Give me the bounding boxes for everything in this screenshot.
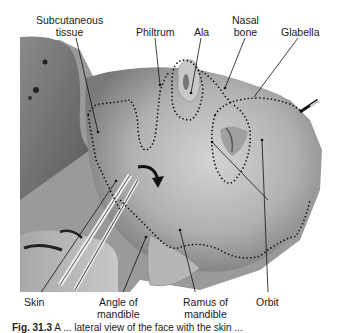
label-line: tissue [36,26,103,38]
label-line: Ala [194,26,209,38]
label-line: Angle of [97,296,140,308]
label-line: Glabella [281,26,320,38]
label-ala: Ala [194,26,209,38]
label-ramus-of-mandible: Ramus of mandible [183,296,228,320]
label-glabella: Glabella [281,26,320,38]
label-line: Skin [24,296,44,308]
label-line: Philtrum [136,26,175,38]
label-angle-of-mandible: Angle of mandible [97,296,140,320]
caption-text: A ... lateral view of the face with the … [54,322,242,333]
label-nasal-bone: Nasal bone [232,14,259,38]
label-line: mandible [183,308,228,320]
label-line: Nasal [232,14,259,26]
label-philtrum: Philtrum [136,26,175,38]
label-line: mandible [97,308,140,320]
label-line: Ramus of [183,296,228,308]
label-orbit: Orbit [256,296,279,308]
label-skin: Skin [24,296,44,308]
label-line: bone [232,26,259,38]
label-line: Subcutaneous [36,14,103,26]
label-line: Orbit [256,296,279,308]
caption-number: Fig. 31.3 [12,322,52,333]
figure-caption: Fig. 31.3 A ... lateral view of the face… [12,322,243,333]
label-subcutaneous-tissue: Subcutaneous tissue [36,14,103,38]
